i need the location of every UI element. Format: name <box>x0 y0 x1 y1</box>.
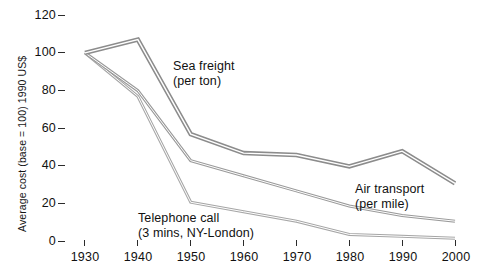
annotation-telephone-call: Telephone call (3 mins, NY-London) <box>138 211 254 240</box>
annotation-air-transport-line1: Air transport <box>355 182 424 197</box>
chart-container: Average cost (base = 100) 1990 US$ 120 1… <box>0 0 490 277</box>
annotation-telephone-call-line2: (3 mins, NY-London) <box>138 226 254 241</box>
annotation-sea-freight-line2: (per ton) <box>173 74 235 89</box>
annotation-air-transport: Air transport (per mile) <box>355 182 424 211</box>
annotation-sea-freight-line1: Sea freight <box>173 59 235 74</box>
annotation-sea-freight: Sea freight (per ton) <box>173 59 235 88</box>
series-sea-freight <box>85 40 455 184</box>
annotation-air-transport-line2: (per mile) <box>355 197 424 212</box>
annotation-telephone-call-line1: Telephone call <box>138 211 254 226</box>
